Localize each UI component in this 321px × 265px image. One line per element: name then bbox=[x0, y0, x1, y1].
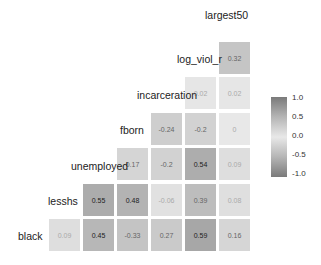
heatmap-cell: 0 bbox=[218, 112, 251, 146]
heatmap-cell: -0.33 bbox=[116, 218, 149, 252]
label-lesshs: lesshs bbox=[48, 195, 78, 207]
correlation-heatmap: 0.090.45-0.330.270.590.160.550.48-0.060.… bbox=[0, 0, 321, 265]
label-fborn: fborn bbox=[120, 124, 144, 136]
heatmap-cell: -0.2 bbox=[150, 147, 183, 181]
heatmap-cell: 0.45 bbox=[82, 218, 115, 252]
heatmap-cell: -0.24 bbox=[150, 112, 183, 146]
legend-tick: -1.0 bbox=[292, 169, 306, 178]
heatmap-cell: 0.59 bbox=[184, 218, 217, 252]
label-log-viol-r: log_viol_r bbox=[177, 53, 222, 65]
heatmap-cell: 0.16 bbox=[218, 218, 251, 252]
label-black: black bbox=[18, 230, 43, 242]
heatmap-cell: 0.08 bbox=[218, 183, 251, 217]
heatmap-cell: 0.54 bbox=[184, 147, 217, 181]
label-incarceration: incarceration bbox=[137, 89, 197, 101]
heatmap-cell: 0.09 bbox=[48, 218, 81, 252]
heatmap-cell: 0.39 bbox=[184, 183, 217, 217]
heatmap-cell: 0.27 bbox=[150, 218, 183, 252]
heatmap-cell: 0.02 bbox=[218, 76, 251, 110]
heatmap-cell: 0.32 bbox=[218, 41, 251, 75]
legend-tick: -0.5 bbox=[292, 150, 306, 159]
legend-tick: 0.5 bbox=[292, 112, 303, 121]
heatmap-cell: -0.2 bbox=[184, 112, 217, 146]
color-scale-legend bbox=[271, 97, 287, 177]
heatmap-cell: 0.48 bbox=[116, 183, 149, 217]
heatmap-cell: -0.06 bbox=[150, 183, 183, 217]
heatmap-cell: 0.55 bbox=[82, 183, 115, 217]
legend-tick: 1.0 bbox=[292, 93, 303, 102]
legend-tick: 0.0 bbox=[292, 131, 303, 140]
label-unemployed: unemployed bbox=[71, 160, 128, 172]
label-largest50: largest50 bbox=[205, 9, 248, 21]
heatmap-cell: 0.09 bbox=[218, 147, 251, 181]
